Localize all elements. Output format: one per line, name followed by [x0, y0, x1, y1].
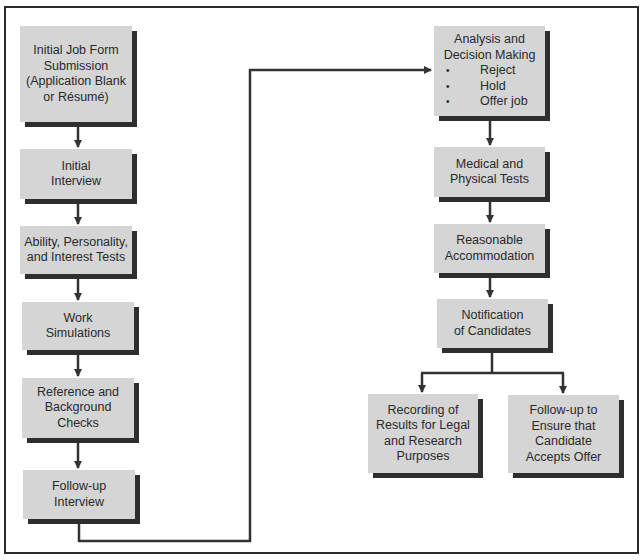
step-text: Follow-up: [52, 479, 106, 495]
step-text: Results for Legal: [376, 418, 470, 434]
step-text: Initial Job Form: [33, 43, 118, 59]
step-initial-interview: Initial Interview: [20, 149, 132, 199]
step-text: Follow-up to: [529, 403, 597, 419]
bullet-icon: •: [446, 94, 450, 110]
step-text: Candidate: [535, 434, 592, 450]
step-text: Interview: [54, 495, 104, 511]
step-text: Purposes: [397, 449, 450, 465]
step-text: Ability, Personality,: [24, 235, 128, 251]
step-text: Reasonable: [456, 233, 523, 249]
step-work-simulations: Work Simulations: [22, 302, 134, 350]
step-text: Accepts Offer: [526, 450, 602, 466]
step-text: Interview: [51, 174, 101, 190]
option-text: Hold: [480, 79, 506, 93]
step-follow-up-offer: Follow-up to Ensure that Candidate Accep…: [508, 395, 619, 473]
step-text: or Résumé): [43, 90, 108, 106]
decision-options-list: • Reject • Hold • Offer job: [438, 63, 541, 110]
step-initial-job-form: Initial Job Form Submission (Application…: [20, 26, 132, 122]
step-follow-up-interview: Follow-up Interview: [23, 470, 135, 519]
step-text: of Candidates: [454, 324, 531, 340]
step-text: Recording of: [388, 403, 459, 419]
step-text: Decision Making: [444, 48, 536, 64]
step-text: Accommodation: [445, 249, 535, 265]
decision-option: • Offer job: [438, 94, 541, 110]
step-text: (Application Blank: [26, 74, 126, 90]
decision-option: • Hold: [438, 79, 541, 95]
step-text: Physical Tests: [450, 172, 529, 188]
option-text: Offer job: [480, 94, 528, 108]
step-text: Submission: [44, 59, 109, 75]
step-text: Work: [64, 311, 93, 327]
step-analysis-decision: Analysis and Decision Making • Reject • …: [434, 26, 545, 116]
step-notification: Notification of Candidates: [437, 299, 548, 348]
option-text: Reject: [480, 63, 515, 77]
bullet-icon: •: [446, 63, 450, 79]
bullet-icon: •: [446, 79, 450, 95]
step-text: Medical and: [456, 157, 523, 173]
step-text: and Interest Tests: [27, 250, 125, 266]
step-reasonable-accommodation: Reasonable Accommodation: [434, 224, 545, 273]
step-reference-checks: Reference and Background Checks: [22, 378, 134, 438]
step-recording-results: Recording of Results for Legal and Resea…: [368, 394, 478, 473]
step-text: and Research: [384, 434, 462, 450]
step-text: Checks: [57, 416, 99, 432]
decision-option: • Reject: [438, 63, 541, 79]
step-text: Reference and: [37, 385, 119, 401]
step-text: Analysis and: [454, 32, 525, 48]
step-ability-tests: Ability, Personality, and Interest Tests: [20, 226, 132, 274]
step-text: Initial: [61, 159, 90, 175]
step-text: Notification: [462, 308, 524, 324]
step-text: Ensure that: [532, 419, 596, 435]
step-text: Simulations: [46, 326, 111, 342]
step-medical-tests: Medical and Physical Tests: [434, 147, 545, 197]
step-text: Background: [45, 400, 112, 416]
